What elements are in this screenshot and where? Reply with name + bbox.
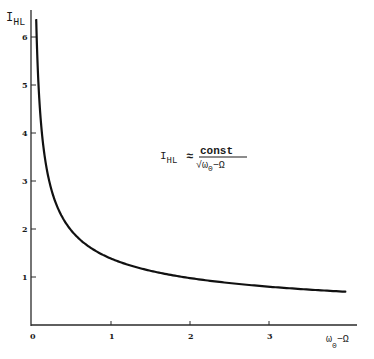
svg-text:const: const [200,145,233,157]
formula-annotation: IHL ≈ const √ω0−Ω [160,145,247,173]
svg-text:√ω0−Ω: √ω0−Ω [196,159,225,173]
svg-text:IHL: IHL [160,150,177,166]
x-tick-label: 1 [109,331,115,341]
y-tick-label: 6 [22,32,28,42]
y-tick-label: 2 [22,224,28,234]
x-tick-label: 3 [267,331,273,341]
x-axis-label: ω0−Ω [326,334,349,350]
svg-text:≈: ≈ [186,150,193,164]
y-tick-label: 1 [22,272,28,282]
y-tick-label: 3 [22,176,28,186]
x-ticks: 0123 [30,321,273,341]
y-ticks: 123456 [22,32,36,282]
chart: 123456 0123 IHL ω0−Ω IHL ≈ const √ω0−Ω [0,0,374,359]
x-tick-label: 2 [188,331,194,341]
y-tick-label: 5 [22,80,28,90]
x-tick-label: 0 [30,331,36,341]
y-axis-label: IHL [6,11,25,28]
y-tick-label: 4 [22,128,28,138]
